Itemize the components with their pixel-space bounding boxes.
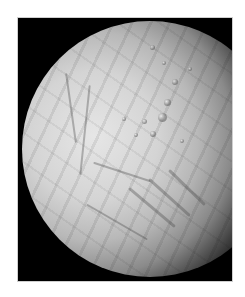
crater [180,139,184,143]
crater [122,117,126,121]
photo-frame [18,18,232,281]
crater [188,67,192,71]
crater [158,113,167,122]
crater [162,61,166,65]
surface-texture [22,21,232,277]
crater [142,119,147,124]
crater [134,133,138,137]
crater [150,131,156,137]
crater [150,45,155,50]
moon-disc [22,21,232,277]
crater [172,79,178,85]
crater [164,99,171,106]
